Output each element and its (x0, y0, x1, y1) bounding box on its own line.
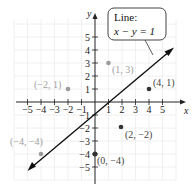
x-axis-label: x (183, 105, 189, 116)
x-tick-label: 2 (120, 104, 125, 115)
point-2-neg2 (119, 125, 124, 130)
y-tick-label: −4 (79, 149, 90, 160)
point-label: (−4, −4) (10, 136, 43, 148)
callout-title: Line: (114, 11, 137, 23)
x-tick-label: −4 (36, 104, 47, 115)
x-tick-label: −2 (63, 104, 74, 115)
x-tick-label: 3 (133, 104, 138, 115)
point-label: (0, −4) (97, 155, 124, 167)
line-callout: Line: x − y = 1 (108, 8, 166, 55)
point-4-1 (147, 87, 152, 92)
x-tick-label: −3 (49, 104, 60, 115)
y-tick-label: 2 (85, 71, 90, 82)
x-tick-label: −5 (22, 104, 33, 115)
y-tick-label: −5 (79, 162, 90, 173)
point-label: (4, 1) (153, 77, 175, 89)
y-axis-label: y (86, 8, 92, 19)
x-tick-label: 1 (106, 104, 111, 115)
point-neg4-neg4 (39, 152, 44, 157)
callout-equation: x − y = 1 (113, 25, 155, 37)
arrowhead-icon (28, 162, 37, 171)
point-neg2-1 (66, 87, 71, 92)
x-tick-labels: −5 −4 −3 −2 −1 1 2 3 4 5 (22, 104, 165, 115)
x-tick-label: 5 (160, 104, 165, 115)
y-tick-label: 5 (85, 32, 90, 43)
y-tick-label: 1 (85, 84, 90, 95)
coordinate-plane: −5 −4 −3 −2 −1 1 2 3 4 5 1 2 3 4 5 −1 −2… (0, 0, 196, 186)
y-tick-label: 3 (85, 58, 90, 69)
y-tick-label: −3 (79, 136, 90, 147)
point-label: (2, −2) (125, 129, 152, 141)
y-tick-label: −2 (79, 123, 90, 134)
point-label: (1, 3) (112, 64, 134, 76)
point-label: (−2, 1) (34, 79, 61, 91)
point-1-3 (106, 61, 111, 66)
x-tick-label: 4 (147, 104, 152, 115)
y-tick-label: 4 (85, 45, 90, 56)
